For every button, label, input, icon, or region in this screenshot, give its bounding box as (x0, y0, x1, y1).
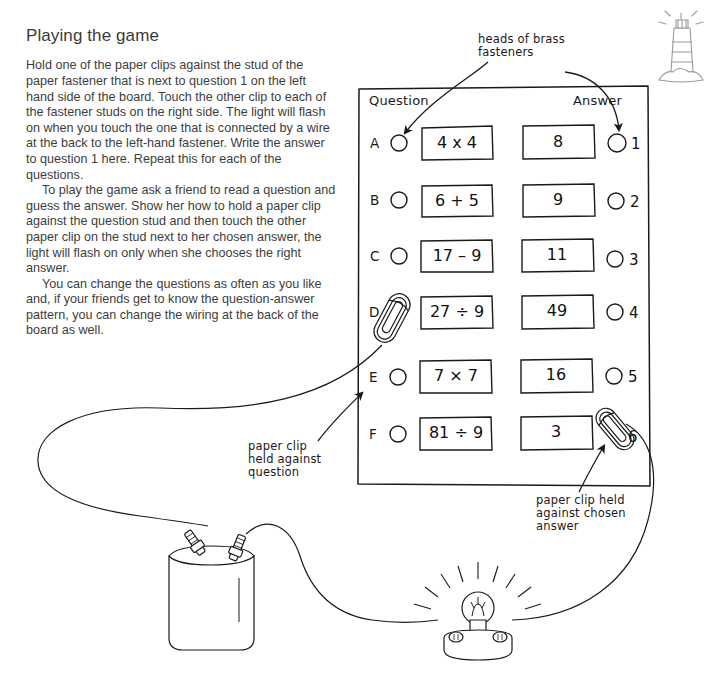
answer-number-3: 3 (629, 251, 639, 269)
answer-text-C: 11 (547, 245, 567, 264)
stud-4 (607, 304, 623, 320)
answer-number-1: 1 (631, 135, 641, 153)
wire-question-to-battery (38, 345, 382, 526)
annotation-fasteners: heads of brass fasteners (478, 33, 618, 59)
question-text-A: 4 x 4 (437, 133, 477, 152)
stud-5 (606, 368, 622, 384)
stud-C (391, 248, 407, 264)
row-letter-A: A (370, 135, 379, 151)
question-header: Question (369, 93, 429, 108)
answer-number-2: 2 (630, 193, 640, 211)
question-text-C: 17 – 9 (433, 246, 482, 265)
leader-clip-question (318, 393, 362, 441)
answer-text-D: 49 (547, 301, 567, 320)
lighthouse-logo-icon (659, 11, 703, 82)
wire-battery-to-bulb (246, 524, 438, 622)
answer-number-5: 5 (628, 368, 638, 386)
answer-text-B: 9 (553, 190, 563, 209)
page-root: Playing the game Hold one of the paper c… (0, 0, 714, 684)
stud-A (391, 135, 407, 151)
question-text-E: 7 × 7 (434, 366, 478, 385)
answer-number-4: 4 (629, 304, 639, 322)
annotation-clip-question: paper clip held against question (248, 440, 378, 479)
stud-2 (608, 193, 624, 209)
answer-text-E: 16 (546, 365, 566, 384)
stud-1 (608, 134, 626, 152)
row-letter-D: D (369, 304, 379, 320)
answer-number-6: 6 (628, 428, 638, 446)
row-letter-B: B (370, 192, 379, 208)
row-letter-C: C (370, 248, 379, 264)
question-text-D: 27 ÷ 9 (430, 302, 484, 321)
answer-text-F: 3 (551, 422, 561, 441)
stud-B (391, 192, 407, 208)
stud-F (390, 426, 406, 442)
answer-header: Answer (573, 93, 622, 108)
stud-3 (607, 251, 623, 267)
question-text-B: 6 + 5 (435, 191, 479, 210)
battery (169, 528, 254, 650)
light-bulb (414, 562, 541, 660)
row-letter-E: E (369, 369, 378, 385)
answer-text-A: 8 (553, 132, 563, 151)
stud-E (390, 369, 406, 385)
annotation-clip-answer: paper clip held against chosen answer (536, 494, 686, 533)
question-text-F: 81 ÷ 9 (429, 423, 483, 442)
